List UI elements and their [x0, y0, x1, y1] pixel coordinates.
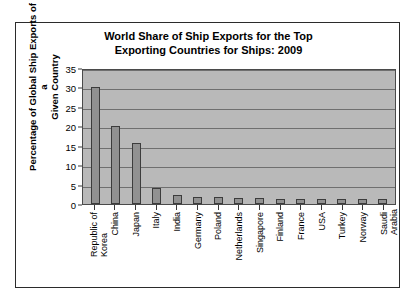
- bar: [296, 199, 305, 204]
- x-axis-tick-mark: [362, 205, 363, 210]
- x-axis-tick-labels: Republic ofKoreaChinaJapanItalyIndiaGerm…: [82, 212, 396, 284]
- y-axis-tick-label: 0: [71, 200, 76, 211]
- bar: [132, 143, 141, 204]
- chart-title-line-2: Exporting Countries for Ships: 2009: [115, 44, 303, 56]
- x-axis-tick-label: Poland: [213, 212, 224, 284]
- x-axis-tick-label-text: China: [110, 212, 120, 236]
- bar: [358, 199, 367, 204]
- bar: [276, 199, 285, 204]
- y-axis-tick-mark: [78, 146, 82, 147]
- plot-area: [82, 69, 396, 205]
- x-axis-tick-label: Netherlands: [233, 212, 244, 284]
- x-axis-tick-marks: [82, 205, 396, 210]
- x-axis-tick-label: Turkey: [337, 212, 348, 284]
- bar: [234, 198, 243, 204]
- x-axis-tick-label: Japan: [130, 212, 141, 284]
- y-axis-label-line-1: Percentage of Global Ship Exports of a: [27, 3, 49, 171]
- y-axis-tick-mark: [78, 166, 82, 167]
- bar: [193, 197, 202, 204]
- y-axis-tick-label: 20: [65, 122, 76, 133]
- x-axis-tick-mark: [176, 205, 177, 210]
- y-axis-tick-mark: [78, 127, 82, 128]
- x-axis-tick-label: USA: [316, 212, 327, 284]
- y-axis-tick-mark: [78, 88, 82, 89]
- x-axis-tick-mark: [342, 205, 343, 210]
- x-axis-tick-label: China: [109, 212, 120, 284]
- x-axis-tick-mark: [114, 205, 115, 210]
- x-axis-tick-label: France: [295, 212, 306, 284]
- x-axis-tick-label: Republic ofKorea: [89, 212, 100, 284]
- bar: [255, 198, 264, 204]
- x-axis-tick-label-text-line-2: Arabia: [389, 209, 399, 235]
- bar: [337, 199, 346, 204]
- x-axis-tick-mark: [280, 205, 281, 210]
- x-axis-tick-label-text: Netherlands: [234, 212, 244, 261]
- bar-series: [83, 70, 395, 204]
- x-axis-tick-mark: [321, 205, 322, 210]
- chart-title-line-1: World Share of Ship Exports for the Top: [104, 30, 313, 42]
- x-axis-tick-label: India: [171, 212, 182, 284]
- x-axis-tick-mark: [94, 205, 95, 210]
- y-axis-tick-label: 15: [65, 141, 76, 152]
- bar: [378, 199, 387, 204]
- x-axis-tick-mark: [383, 205, 384, 210]
- x-axis-tick-label-text: Germany: [193, 212, 203, 249]
- x-axis-tick-label-text: Finland: [275, 212, 285, 242]
- bar: [214, 197, 223, 204]
- bar: [152, 188, 161, 204]
- bar: [111, 126, 120, 204]
- x-axis-tick-label: Norway: [357, 212, 368, 284]
- x-axis-tick-label-text: SaudiArabia: [379, 212, 389, 235]
- x-axis-tick-label-text: Singapore: [255, 212, 265, 253]
- y-axis-label: Percentage of Global Ship Exports of a G…: [27, 2, 51, 172]
- y-axis-tick-label: 30: [65, 83, 76, 94]
- y-axis-tick-mark: [78, 69, 82, 70]
- y-axis-tick-mark: [78, 107, 82, 108]
- y-axis-tick-mark: [78, 205, 82, 206]
- x-axis-tick-mark: [259, 205, 260, 210]
- bar: [173, 195, 182, 204]
- chart-title: World Share of Ship Exports for the Top …: [46, 29, 371, 57]
- x-axis-tick-label-text: Norway: [358, 212, 368, 243]
- x-axis-tick-label: Italy: [151, 212, 162, 284]
- x-axis-tick-label: Germany: [192, 212, 203, 284]
- y-axis-tick-mark: [78, 185, 82, 186]
- bar: [317, 199, 326, 204]
- x-axis-tick-label-text: France: [296, 212, 306, 240]
- y-axis-tick-label: 10: [65, 161, 76, 172]
- x-axis-tick-label-text: Turkey: [337, 212, 347, 239]
- x-axis-tick-label: SaudiArabia: [378, 212, 389, 284]
- x-axis-tick-label-text: India: [172, 212, 182, 232]
- bar: [91, 87, 100, 204]
- y-axis-tick-labels: 05101520253035: [54, 69, 76, 205]
- y-axis-tick-label: 35: [65, 64, 76, 75]
- y-axis-tick-label: 5: [71, 180, 76, 191]
- y-axis-tick-label: 25: [65, 102, 76, 113]
- x-axis-tick-mark: [135, 205, 136, 210]
- x-axis-tick-label: Finland: [275, 212, 286, 284]
- x-axis-tick-mark: [218, 205, 219, 210]
- x-axis-tick-label-text: Italy: [151, 212, 161, 229]
- x-axis-tick-mark: [238, 205, 239, 210]
- x-axis-tick-label-text: Japan: [131, 212, 141, 237]
- x-axis-tick-label: Singapore: [254, 212, 265, 284]
- chart-figure: World Share of Ship Exports for the Top …: [15, 22, 400, 288]
- x-axis-tick-label-text: USA: [317, 212, 327, 231]
- x-axis-tick-mark: [300, 205, 301, 210]
- x-axis-tick-label-text-line-2: Korea: [99, 233, 109, 257]
- x-axis-tick-mark: [197, 205, 198, 210]
- x-axis-tick-label-text: Republic ofKorea: [89, 212, 99, 257]
- x-axis-tick-label-text: Poland: [213, 212, 223, 240]
- x-axis-tick-mark: [156, 205, 157, 210]
